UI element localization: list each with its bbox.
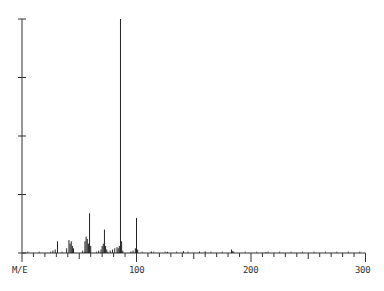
x-tick-label-100: 100 [129, 265, 144, 275]
x-tick-label-200: 200 [243, 265, 258, 275]
x-tick-label-300: 300 [355, 265, 370, 275]
chart-axes [18, 19, 366, 262]
x-axis-label: M/E [12, 265, 27, 275]
mass-spectrum-chart [0, 0, 384, 291]
spectrum-peaks [53, 19, 266, 253]
